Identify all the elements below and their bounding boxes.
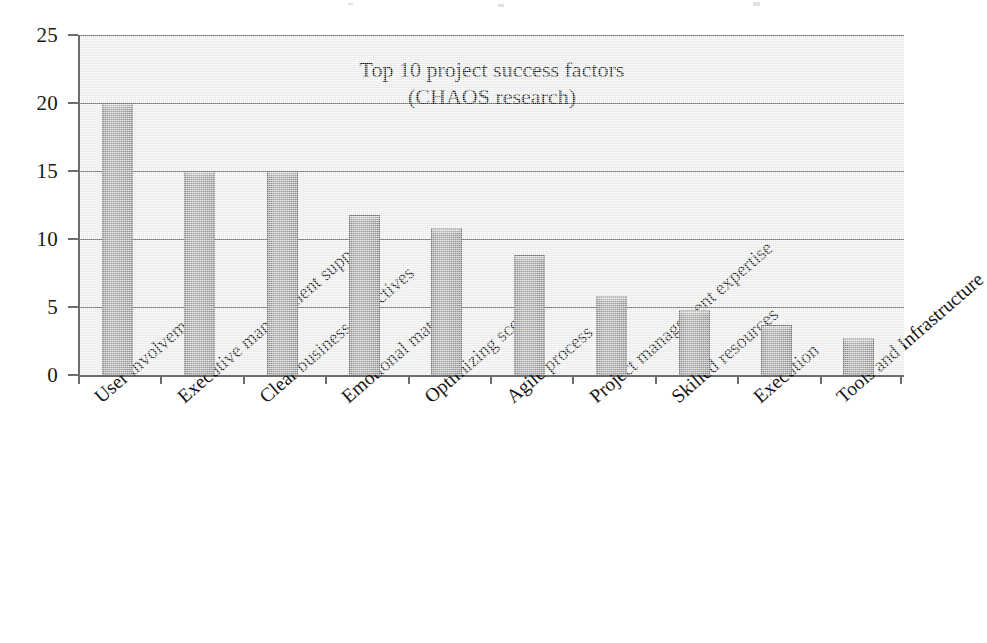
bar	[431, 228, 462, 375]
y-axis-tick-mark	[68, 374, 78, 376]
y-axis-tick-label: 25	[37, 23, 58, 48]
scan-artifact	[498, 4, 504, 7]
bar	[843, 338, 874, 375]
bar	[514, 255, 545, 375]
y-axis-tick-mark	[68, 34, 78, 36]
x-axis-tick-mark	[737, 375, 739, 384]
scan-artifact	[348, 3, 353, 5]
y-axis-tick-label: 5	[47, 295, 58, 320]
scan-artifact	[753, 2, 760, 6]
chart-title: Top 10 project success factors (CHAOS re…	[360, 57, 625, 111]
y-axis-tick-label: 10	[37, 227, 58, 252]
chart-title-line1: Top 10 project success factors	[360, 57, 625, 84]
chart-title-line2: (CHAOS research)	[360, 84, 625, 111]
plot-area: Top 10 project success factors (CHAOS re…	[78, 35, 904, 377]
y-axis-tick-mark	[68, 238, 78, 240]
bar	[596, 296, 627, 375]
y-axis-tick-label: 20	[37, 91, 58, 116]
bar	[349, 215, 380, 375]
bar	[102, 103, 133, 375]
bar	[184, 171, 215, 375]
y-axis-tick-label: 15	[37, 159, 58, 184]
bar	[679, 310, 710, 375]
x-axis-tick-mark	[820, 375, 822, 384]
y-axis: 0510152025	[0, 35, 78, 375]
y-axis-tick-mark	[68, 170, 78, 172]
y-axis-tick-mark	[68, 102, 78, 104]
x-axis-tick-mark	[655, 375, 657, 384]
bar	[267, 171, 298, 375]
x-axis-tick-mark	[900, 375, 902, 384]
bar	[761, 325, 792, 375]
x-axis-tick-mark	[490, 375, 492, 384]
x-axis-tick-mark	[572, 375, 574, 384]
y-axis-tick-mark	[68, 306, 78, 308]
y-axis-tick-label: 0	[47, 363, 58, 388]
x-axis-tick-mark	[243, 375, 245, 384]
x-axis-tick-mark	[408, 375, 410, 384]
x-axis-tick-mark	[325, 375, 327, 384]
gridline-25	[80, 35, 904, 36]
x-axis-tick-mark	[160, 375, 162, 384]
x-axis-tick-mark	[78, 375, 80, 384]
